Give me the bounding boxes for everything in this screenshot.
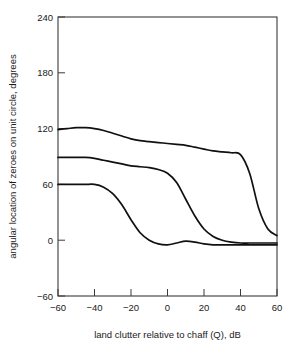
- x-tick-label-neg20: −20: [123, 302, 139, 313]
- curve-zero-middle: [58, 157, 277, 243]
- y-tick-label-neg60: −60: [37, 291, 53, 302]
- x-tick-label-0: 0: [165, 302, 170, 313]
- x-axis-ticks: [58, 289, 277, 296]
- y-tick-label-180: 180: [37, 67, 53, 78]
- data-curves: [58, 128, 277, 245]
- x-tick-label-60: 60: [272, 302, 283, 313]
- plot-frame: [58, 17, 277, 296]
- y-tick-label-240: 240: [37, 12, 53, 23]
- x-tick-labels: −60 −40 −20 0 20 40 60: [50, 302, 282, 313]
- x-tick-label-neg60: −60: [50, 302, 66, 313]
- x-axis-title: land clutter relative to chaff (Q), dB: [94, 329, 241, 340]
- x-tick-label-neg40: −40: [86, 302, 102, 313]
- curve-zero-upper: [58, 128, 277, 236]
- y-tick-labels: 240 180 120 60 0 −60: [37, 12, 53, 302]
- x-tick-label-40: 40: [235, 302, 246, 313]
- y-axis-title: angular location of zeroes on unit circl…: [7, 54, 18, 259]
- y-axis-ticks: [58, 17, 65, 296]
- x-tick-label-20: 20: [199, 302, 210, 313]
- curve-zero-lower: [58, 184, 277, 245]
- y-tick-label-120: 120: [37, 123, 53, 134]
- y-tick-label-0: 0: [48, 235, 53, 246]
- chart-figure: 240 180 120 60 0 −60 −60 −40 −20 0 20 40…: [0, 0, 298, 352]
- y-tick-label-60: 60: [42, 179, 53, 190]
